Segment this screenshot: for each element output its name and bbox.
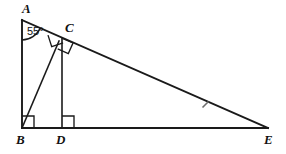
geometry-figure: A B C D E 55° bbox=[0, 0, 286, 154]
vertex-label-e: E bbox=[264, 133, 273, 146]
tick-mark-ce bbox=[203, 102, 209, 108]
vertex-label-a: A bbox=[22, 2, 31, 15]
geometry-canvas bbox=[0, 0, 286, 154]
right-angle-mark-d bbox=[62, 116, 74, 128]
angle-label-a: 55° bbox=[27, 26, 44, 37]
segment-bc bbox=[22, 41, 59, 128]
vertex-label-d: D bbox=[56, 133, 65, 146]
segment-ae bbox=[22, 20, 268, 128]
vertex-label-c: C bbox=[65, 21, 74, 34]
vertex-label-b: B bbox=[16, 133, 25, 146]
